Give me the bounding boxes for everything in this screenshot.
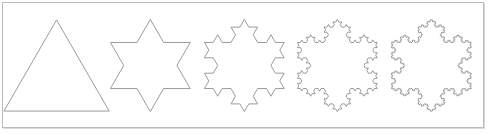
koch-svg-iteration-3: [296, 18, 379, 113]
koch-svg-iteration-2: [203, 18, 286, 113]
koch-svg-iteration-0: [2, 18, 111, 113]
koch-shape-iteration-2: [198, 6, 290, 124]
koch-svg-iteration-1: [109, 18, 192, 113]
koch-outline-iteration-3: [298, 19, 378, 111]
koch-shape-iteration-0: [11, 6, 103, 124]
koch-svg-iteration-4: [390, 18, 473, 113]
koch-outline-iteration-2: [204, 19, 284, 111]
koch-outline-iteration-0: [4, 19, 109, 110]
koch-outline-iteration-4: [391, 19, 471, 111]
koch-shape-iteration-1: [105, 6, 197, 124]
koch-shape-iteration-3: [292, 6, 384, 124]
koch-iteration-row: [3, 3, 483, 127]
figure-panel: [2, 2, 484, 128]
koch-shape-iteration-4: [385, 6, 477, 124]
koch-outline-iteration-1: [111, 19, 191, 111]
